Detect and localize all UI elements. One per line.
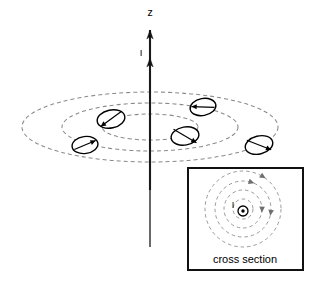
current-out-of-page-dot: [241, 209, 244, 212]
compass-needle-2: [189, 96, 218, 117]
z-axis-label: z: [147, 6, 152, 18]
compass-needle-3: [170, 125, 201, 148]
compass-needle-4: [71, 135, 99, 155]
cross-section-caption: cross section: [213, 253, 277, 265]
diagram-canvas: zIIcross section: [0, 0, 311, 284]
inset-current-label: I: [232, 200, 235, 210]
current-label: I: [140, 47, 143, 58]
compass-needle-5: [243, 133, 275, 157]
physics-diagram: zIIcross section: [0, 0, 311, 284]
compass-needle-1: [95, 107, 126, 130]
